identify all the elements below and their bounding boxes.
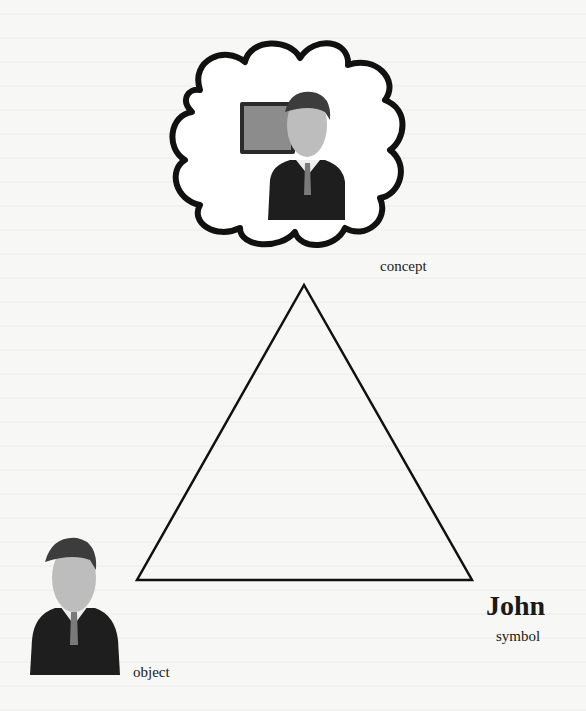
businessman-avatar-icon	[30, 538, 120, 675]
concept-label: concept	[380, 258, 427, 275]
semiotic-triangle	[137, 285, 472, 580]
symbol-word: John	[486, 590, 545, 622]
object-label: object	[133, 664, 170, 681]
symbol-label: symbol	[496, 628, 540, 645]
